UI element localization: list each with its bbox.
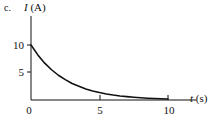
plot-area bbox=[0, 0, 216, 122]
figure-panel: c. I (A) t (s) 10 5 0 5 10 bbox=[0, 0, 216, 122]
decay-curve bbox=[31, 45, 168, 99]
